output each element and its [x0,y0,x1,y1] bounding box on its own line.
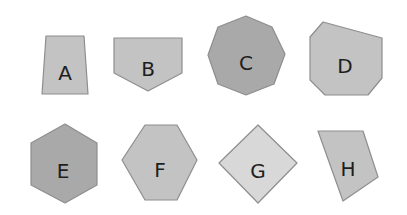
shape-d: D [310,22,382,95]
shape-g-label: G [250,159,266,183]
shape-a: A [42,36,88,94]
shape-c: C [208,16,285,95]
shape-c-label: C [239,51,253,75]
shape-e: E [31,124,97,203]
shape-b: B [114,38,182,91]
shape-f: F [122,125,197,200]
shape-g: G [219,125,297,203]
shape-h-label: H [340,157,355,181]
shape-h: H [318,131,378,201]
shape-f-label: F [154,158,166,182]
shapes-diagram: A B C D E F G H [0,0,407,215]
shape-e-label: E [57,159,70,183]
shape-a-label: A [58,61,72,85]
shape-d-label: D [337,54,352,78]
shapes-svg: A B C D E F G H [0,0,407,215]
shape-b-label: B [141,57,155,81]
